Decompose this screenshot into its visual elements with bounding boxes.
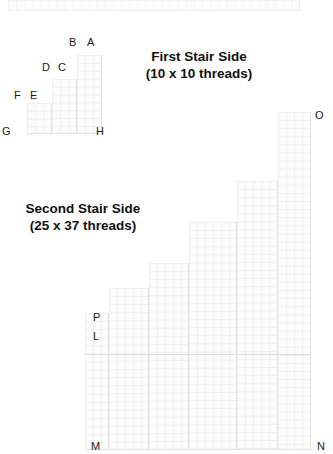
first-stair-caption-line1: First Stair Side — [124, 48, 274, 65]
first-stair-column-low — [27, 103, 52, 134]
label-point-l: L — [93, 331, 99, 342]
second-stair-caption-line1: Second Stair Side — [4, 200, 162, 217]
second-stair-step-4 — [189, 222, 237, 450]
label-point-b: B — [69, 37, 76, 48]
label-point-o: O — [315, 110, 324, 121]
label-point-f: F — [14, 90, 21, 101]
second-stair-step-3 — [149, 263, 189, 450]
second-stair-step-6 — [278, 112, 311, 450]
first-stair-caption-line2: (10 x 10 threads) — [124, 65, 274, 82]
label-point-d: D — [42, 62, 50, 73]
top-thread-strip — [8, 0, 300, 11]
label-point-m: M — [91, 441, 100, 452]
second-stair-step-5 — [237, 181, 278, 450]
label-point-n: N — [317, 441, 325, 452]
second-stair-caption-line2: (25 x 37 threads) — [4, 217, 162, 234]
stair-chart-canvas: B A D C F E G H First Stair Side (10 x 1… — [0, 0, 333, 454]
label-point-h: H — [96, 126, 104, 137]
first-stair-column-mid — [52, 79, 77, 134]
first-stair-caption: First Stair Side (10 x 10 threads) — [124, 48, 274, 82]
label-point-p: P — [93, 312, 100, 323]
second-stair-step-2 — [109, 288, 149, 450]
first-stair-column-tall — [77, 55, 102, 134]
label-point-e: E — [30, 90, 37, 101]
second-stair-caption: Second Stair Side (25 x 37 threads) — [4, 200, 162, 234]
second-stair-major-gridline — [85, 354, 311, 355]
label-point-g: G — [2, 126, 11, 137]
label-point-a: A — [87, 37, 94, 48]
label-point-c: C — [58, 62, 66, 73]
